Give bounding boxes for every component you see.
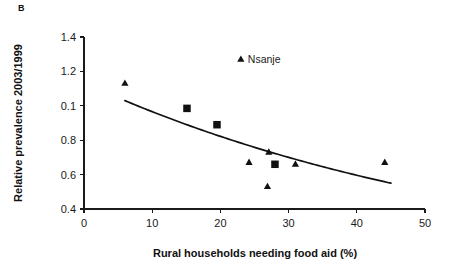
y-tick-label: 1.4 xyxy=(61,31,76,43)
x-axis-title: Rural households needing food aid (%) xyxy=(153,247,357,259)
data-point-triangle xyxy=(121,79,128,85)
x-tick-label: 0 xyxy=(81,217,87,229)
y-axis-title: Relative prevalence 2003/1999 xyxy=(12,44,24,202)
data-point-square xyxy=(183,105,191,113)
y-tick-label: 0.1 xyxy=(61,100,76,112)
scatter-chart: 0.40.60.80.11.21.4 01020304050 Nsanje Ru… xyxy=(0,0,451,263)
data-point-triangle xyxy=(292,160,299,166)
y-axis-tick-labels: 0.40.60.80.11.21.4 xyxy=(61,31,76,215)
data-point-triangle xyxy=(245,159,252,165)
x-tick-label: 50 xyxy=(419,217,431,229)
figure-panel: B 0.40.60.80.11.21.4 01020304050 Nsanje … xyxy=(0,0,451,263)
data-point-markers xyxy=(121,55,388,189)
point-annotation-label: Nsanje xyxy=(248,53,281,65)
y-tick-label: 0.8 xyxy=(61,134,76,146)
y-tick-label: 0.4 xyxy=(61,203,76,215)
y-tick-label: 1.2 xyxy=(61,65,76,77)
data-point-triangle xyxy=(381,159,388,165)
x-tick-label: 40 xyxy=(351,217,363,229)
data-point-triangle xyxy=(237,55,244,61)
x-tick-label: 20 xyxy=(214,217,226,229)
y-tick-label: 0.6 xyxy=(61,169,76,181)
x-tick-label: 10 xyxy=(146,217,158,229)
x-tick-label: 30 xyxy=(282,217,294,229)
data-point-square xyxy=(213,121,221,129)
trend-line xyxy=(125,101,391,184)
data-point-triangle xyxy=(264,183,271,189)
data-point-square xyxy=(271,161,279,169)
point-annotations: Nsanje xyxy=(248,53,281,65)
x-axis-tick-labels: 01020304050 xyxy=(81,217,431,229)
